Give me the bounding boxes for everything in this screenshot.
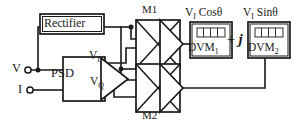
current-input-label: I <box>18 83 22 96</box>
psd-label: PSD <box>51 67 74 80</box>
dvm1-label: DVM1 <box>188 42 219 54</box>
dvm2-display-icon <box>255 28 283 37</box>
wire-vi-to-mixer1 <box>108 48 136 63</box>
current-input-terminal-icon <box>27 87 33 93</box>
mixer2-label: M2 <box>142 110 157 121</box>
signal-vq-label: VQ <box>90 76 104 88</box>
dvm2-quantity-label: VI Sinθ <box>243 7 278 19</box>
signal-vi-label: VI <box>89 50 100 62</box>
junction-dot-v-branch <box>36 68 41 73</box>
wire-mixer2-to-dvm2 <box>182 58 265 88</box>
mixer1-label: M1 <box>142 4 157 15</box>
voltage-input-terminal-icon <box>25 67 31 73</box>
dvm1-quantity-label: VI Cosθ <box>185 7 222 19</box>
complex-combiner-label: + j <box>227 32 243 47</box>
rectifier-label: Rectifier <box>44 17 85 29</box>
junction-dot-lo-bus <box>119 67 124 72</box>
dvm1-display-icon <box>197 28 225 37</box>
dvm2-label: DVM2 <box>248 42 279 54</box>
junction-dot-rectifier-out <box>129 25 134 30</box>
voltage-input-label: V <box>12 62 21 75</box>
block-diagram-figure: Rectifier PSD V I VI VQ M1 M2 VI Cosθ VI… <box>0 0 297 126</box>
